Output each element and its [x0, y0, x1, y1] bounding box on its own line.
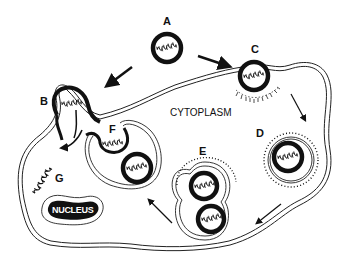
arrow-e-to-f — [149, 200, 172, 223]
arrow-a-to-b — [108, 67, 132, 85]
nucleus-label: NUCLEUS — [52, 205, 94, 215]
label-b: B — [40, 95, 48, 107]
label-a: A — [163, 15, 171, 27]
cytoplasm-label: CYTOPLASM — [170, 107, 232, 118]
stage-e-endosome — [172, 158, 236, 240]
stage-a-virion — [153, 34, 181, 62]
label-c: C — [251, 43, 259, 55]
label-e: E — [199, 145, 206, 157]
label-g: G — [55, 172, 64, 184]
arrow-c-to-d — [291, 94, 305, 120]
stage-g-released-genome — [32, 167, 52, 195]
arrow-a-to-c — [198, 56, 228, 66]
arrow-b-to-g — [62, 130, 82, 148]
label-d: D — [256, 127, 264, 139]
virus-entry-diagram: A B C D — [0, 0, 361, 270]
stage-f-uncoating — [85, 120, 161, 189]
label-f: F — [109, 123, 116, 135]
stage-c-attachment — [236, 62, 280, 103]
nucleus: NUCLEUS — [42, 195, 103, 225]
stage-d-coated-vesicle — [264, 133, 318, 187]
